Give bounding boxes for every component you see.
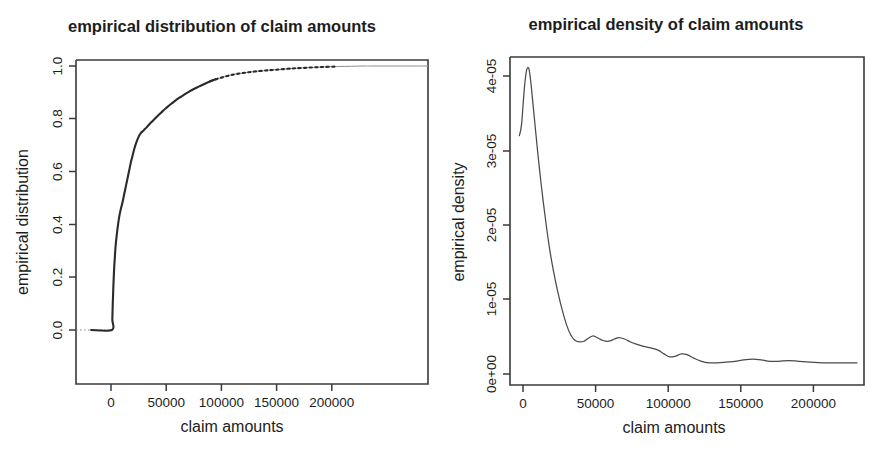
- x-tick-label-left-4: 200000: [309, 395, 354, 410]
- x-axis-ticks-right: [523, 385, 813, 392]
- page-title-right: empirical density of claim amounts: [528, 15, 803, 33]
- empirical-distribution-svg: empirical distribution of claim amounts …: [0, 0, 444, 466]
- plot-box-right: [510, 57, 864, 385]
- y-axis-ticks-left: [69, 66, 76, 330]
- empirical-density-svg: empirical density of claim amounts 0e+00…: [444, 0, 888, 466]
- y-tick-label-left-5: 1.0: [50, 57, 65, 76]
- x-tick-label-right-3: 150000: [718, 396, 763, 411]
- y-tick-label-right-3: 3e-05: [484, 134, 499, 169]
- y-axis-ticks-right: [503, 76, 510, 374]
- y-tick-label-left-2: 0.4: [50, 215, 65, 234]
- y-tick-label-right-4: 4e-05: [484, 59, 499, 94]
- density-curve: [519, 67, 857, 362]
- x-tick-label-left-2: 100000: [199, 395, 244, 410]
- y-tick-label-left-4: 0.8: [50, 109, 65, 128]
- panel-empirical-distribution: empirical distribution of claim amounts …: [0, 0, 444, 466]
- y-tick-label-left-0: 0.0: [50, 321, 65, 340]
- y-axis-title-right: empirical density: [450, 162, 467, 281]
- x-axis-title-right: claim amounts: [622, 419, 725, 436]
- ecdf-curve-dotted: [210, 67, 337, 82]
- page-title-left: empirical distribution of claim amounts: [68, 17, 376, 35]
- x-tick-label-left-3: 150000: [254, 395, 299, 410]
- x-axis-title-left: claim amounts: [180, 418, 283, 435]
- x-axis-ticks-left: [111, 384, 332, 391]
- y-tick-label-right-0: 0e+00: [484, 355, 499, 393]
- panel-empirical-density: empirical density of claim amounts 0e+00…: [444, 0, 888, 466]
- plot-box-left: [76, 60, 428, 384]
- ecdf-curve-solid: [91, 79, 216, 331]
- density-plot-area: [519, 67, 857, 362]
- x-tick-label-right-1: 50000: [577, 396, 615, 411]
- x-tick-label-right-0: 0: [519, 396, 527, 411]
- y-tick-label-left-1: 0.2: [50, 268, 65, 287]
- ecdf-plot-area: [76, 66, 428, 331]
- x-tick-label-left-0: 0: [107, 395, 115, 410]
- y-tick-label-right-2: 2e-05: [484, 208, 499, 243]
- y-tick-label-right-1: 1e-05: [484, 282, 499, 317]
- x-tick-label-right-2: 100000: [646, 396, 691, 411]
- x-tick-label-right-4: 200000: [791, 396, 836, 411]
- x-tick-label-left-1: 50000: [147, 395, 185, 410]
- y-axis-title-left: empirical distribution: [14, 149, 31, 295]
- figure-two-panel-plot: empirical distribution of claim amounts …: [0, 0, 888, 466]
- y-tick-label-left-3: 0.6: [50, 162, 65, 181]
